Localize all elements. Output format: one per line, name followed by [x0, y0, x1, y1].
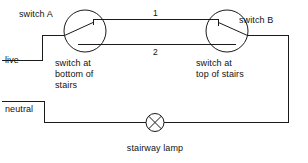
switch-a-caption-line2: bottom of [55, 69, 93, 80]
neutral-label: neutral [5, 104, 33, 115]
stairway-lighting-circuit-diagram: switch A switch B 1 2 live neutral switc… [0, 0, 308, 163]
switch-a-caption-line3: stairs [55, 80, 77, 91]
switch-a-label: switch A [19, 9, 53, 20]
switch-a-caption-line1: switch at [55, 58, 91, 69]
lamp-crossed-circle-icon [146, 114, 164, 132]
traveller-wire-1-label: 1 [153, 8, 158, 19]
switch-b-label: switch B [239, 15, 273, 26]
lamp-label: stairway lamp [118, 143, 192, 154]
switch-a-symbol [64, 10, 106, 52]
switch-b-caption-line1: switch at [196, 58, 232, 69]
switch-b-caption-line2: top of stairs [196, 69, 244, 80]
traveller-wire-2-label: 2 [153, 47, 158, 58]
live-label: live [5, 55, 19, 66]
switch-b-return-wire [247, 36, 289, 123]
